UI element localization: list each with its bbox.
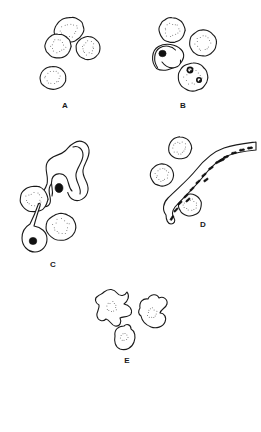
cell-outline [150, 164, 173, 186]
panel-c [20, 141, 89, 252]
stipple-dot [59, 78, 60, 79]
cell-outline [169, 137, 192, 159]
stipple-dot [155, 173, 156, 174]
stipple-dot [41, 197, 42, 198]
stipple-dot [115, 307, 116, 308]
stipple-dot [167, 178, 168, 179]
stipple-dot [199, 48, 200, 49]
stipple-dot [164, 179, 165, 180]
stipple-dot [177, 32, 178, 33]
stipple-dot [69, 36, 70, 37]
stipple-dot [121, 335, 122, 336]
stipple-dot [200, 37, 201, 38]
stipple-dot [53, 71, 54, 72]
stipple-dot [175, 143, 176, 144]
crenated-outline [115, 325, 135, 350]
stipple-dot [61, 26, 62, 27]
stipple-dot [188, 210, 189, 211]
stipple-dot [52, 44, 53, 45]
panel-label-b: B [176, 101, 190, 111]
stipple-dot [31, 194, 32, 195]
figure-artwork [0, 0, 261, 432]
stipple-dot [69, 223, 70, 224]
stipple-dot [186, 208, 187, 209]
stipple-dot [50, 46, 51, 47]
stipple-dot [165, 33, 166, 34]
stippled-cell [159, 18, 185, 43]
ribbon-nucleus [55, 183, 63, 192]
stipple-dot [208, 37, 209, 38]
stipple-dot [108, 303, 109, 304]
stipple-dot [93, 47, 94, 48]
stipple-dot [198, 72, 199, 73]
stipple-dot [57, 219, 58, 220]
stipple-dot [173, 145, 174, 146]
stipple-dot [209, 40, 210, 41]
stippled-cell [150, 164, 173, 186]
stipple-dot [25, 196, 26, 197]
stipple-dot [151, 317, 152, 318]
stipple-dot [114, 303, 115, 304]
stipple-dot [84, 45, 85, 46]
stipple-dot [116, 309, 117, 310]
stipple-dot [53, 41, 54, 42]
stipple-dot [73, 24, 74, 25]
cell-outline [45, 34, 71, 58]
stipple-dot [186, 74, 187, 75]
cell-outline [20, 186, 48, 211]
cell-outline [40, 67, 66, 90]
stipple-dot [110, 303, 111, 304]
stipple-dot [48, 82, 49, 83]
stipple-dot [167, 24, 168, 25]
stipple-dot [200, 75, 201, 76]
stipple-dot [26, 200, 27, 201]
panel-label-e: E [120, 356, 134, 366]
cell-outline [46, 213, 76, 240]
stipple-dot [126, 334, 127, 335]
stipple-dot [50, 83, 51, 84]
stipple-dot [183, 150, 184, 151]
figure-plate: A B C D E [0, 0, 261, 432]
crenated-outline [95, 289, 131, 326]
stipple-dot [172, 148, 173, 149]
stipple-dot [75, 31, 76, 32]
stipple-dot [205, 49, 206, 50]
stipple-dot [63, 49, 64, 50]
panel-d [150, 137, 256, 224]
stipple-dot [178, 28, 179, 29]
stipple-dot [28, 194, 29, 195]
stippled-cell [190, 30, 217, 56]
stipple-dot [111, 311, 112, 312]
panel-b [153, 18, 217, 91]
crescent-nucleus [159, 50, 166, 56]
stipple-dot [40, 201, 41, 202]
stipple-dot [39, 200, 40, 201]
ring-form-chromatin-dot [199, 80, 201, 82]
stipple-dot [61, 32, 62, 33]
stipple-dot [192, 199, 193, 200]
stipple-dot [59, 51, 60, 52]
stipple-dot [50, 71, 51, 72]
stipple-dot [152, 307, 153, 308]
stipple-dot [147, 315, 148, 316]
stipple-dot [47, 80, 48, 81]
stipple-dot [65, 47, 66, 48]
stipple-dot [156, 311, 157, 312]
stipple-dot [128, 337, 129, 338]
stipple-dot [182, 152, 183, 153]
panel-label-d: D [196, 220, 210, 230]
stippled-cell [40, 67, 66, 90]
stipple-dot [196, 203, 197, 204]
stipple-dot [153, 317, 154, 318]
stipple-dot [167, 175, 168, 176]
stipple-dot [84, 52, 85, 53]
stipple-dot [31, 205, 32, 206]
stipple-dot [120, 338, 121, 339]
stipple-dot [148, 312, 149, 313]
stipple-dot [52, 48, 53, 49]
stipple-dot [93, 48, 94, 49]
stipple-dot [74, 33, 75, 34]
stipple-dot [63, 44, 64, 45]
stipple-dot [85, 42, 86, 43]
stipple-dot [54, 230, 55, 231]
